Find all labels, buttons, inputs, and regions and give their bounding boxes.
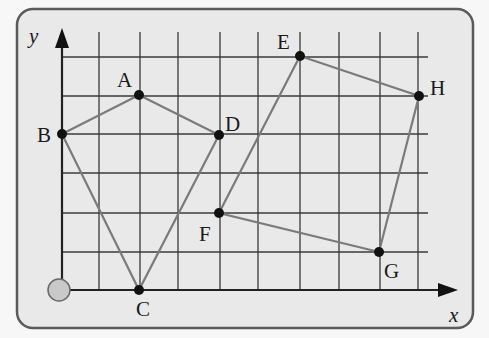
label-b: B bbox=[37, 123, 51, 147]
point-f bbox=[214, 208, 224, 218]
label-g: G bbox=[384, 259, 399, 283]
label-f: F bbox=[199, 222, 211, 246]
label-h: H bbox=[430, 76, 445, 100]
label-c: C bbox=[136, 297, 150, 321]
point-e bbox=[295, 51, 305, 61]
point-c bbox=[134, 285, 144, 295]
y-axis-label: y bbox=[27, 24, 39, 48]
point-a bbox=[134, 90, 144, 100]
label-d: D bbox=[225, 112, 240, 136]
label-e: E bbox=[277, 30, 290, 54]
point-g bbox=[374, 247, 384, 257]
coordinate-grid-diagram: y x A B C D E F G H bbox=[0, 0, 489, 338]
label-a: A bbox=[117, 68, 133, 92]
origin-marker bbox=[48, 279, 70, 301]
x-axis-label: x bbox=[448, 303, 459, 327]
point-h bbox=[414, 91, 424, 101]
point-d bbox=[214, 130, 224, 140]
point-b bbox=[57, 129, 67, 139]
